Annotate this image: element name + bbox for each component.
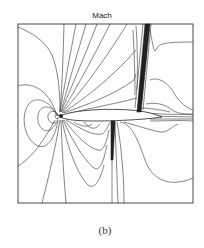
- figure-caption: (b): [0, 224, 204, 236]
- mach-contour-plot: [0, 0, 204, 248]
- leading-edge-cluster: [59, 114, 63, 118]
- airfoil: [60, 109, 162, 121]
- lower-shock: [111, 121, 115, 160]
- figure: Mach: [0, 0, 204, 248]
